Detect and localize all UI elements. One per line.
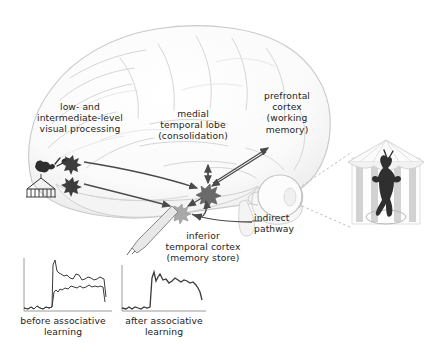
chart-before-trace-nonpreferred (24, 285, 105, 309)
label-prefrontal-cortex: prefrontal cortex (working memory) (248, 90, 326, 135)
label-indirect-pathway: indirect pathway (254, 212, 326, 234)
label-inferior-temporal-cortex: inferior temporal cortex (memory store) (148, 230, 258, 264)
chart-after-associative-learning (122, 265, 206, 311)
circus-tent-with-dog-icon (348, 140, 424, 224)
chart-before-associative-learning (24, 258, 112, 311)
figure-canvas (0, 0, 431, 364)
label-medial-temporal-lobe: medial temporal lobe (consolidation) (147, 108, 239, 142)
label-visual-processing: low- and intermediate-level visual proce… (20, 101, 140, 135)
label-before-associative-learning: before associative learning (8, 315, 118, 337)
chart-after-trace (122, 272, 202, 309)
label-after-associative-learning: after associative learning (112, 315, 216, 337)
chart-before-trace-preferred (24, 260, 106, 309)
